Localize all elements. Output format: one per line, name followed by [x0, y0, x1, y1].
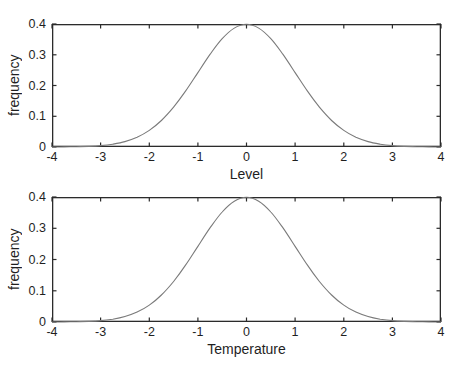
y-tick-label: 0.3 [29, 49, 46, 62]
y-axis-label: frequency [6, 24, 22, 147]
x-tick-label: 3 [389, 326, 396, 339]
x-tick-label: -1 [192, 326, 203, 339]
x-tick-label: 4 [438, 326, 445, 339]
y-axis-label: frequency [6, 197, 22, 322]
y-tick-label: 0.2 [29, 253, 46, 266]
x-tick-label: 3 [389, 151, 396, 164]
x-tick-label: -3 [95, 326, 106, 339]
x-tick-label: 1 [292, 326, 299, 339]
plot-level: frequency Level -4-3-2-10123400.10.20.30… [52, 24, 441, 147]
y-tick-label: 0.1 [29, 285, 46, 298]
axes-canvas-level [52, 24, 441, 147]
x-tick-label: -2 [144, 326, 155, 339]
figure: frequency Level -4-3-2-10123400.10.20.30… [0, 0, 467, 375]
x-axis-label: Temperature [207, 342, 286, 356]
x-tick-label: -4 [46, 326, 57, 339]
y-tick-label: 0.3 [29, 222, 46, 235]
x-tick-label: 2 [340, 326, 347, 339]
x-tick-label: 0 [243, 151, 250, 164]
x-tick-label: 1 [292, 151, 299, 164]
x-tick-label: -2 [144, 151, 155, 164]
y-tick-label: 0.1 [29, 110, 46, 123]
y-tick-label: 0 [39, 141, 46, 154]
x-tick-label: 2 [340, 151, 347, 164]
x-tick-label: 0 [243, 326, 250, 339]
axes-canvas-temperature [52, 197, 441, 322]
y-tick-label: 0.2 [29, 79, 46, 92]
x-tick-label: -3 [95, 151, 106, 164]
plot-temperature: frequency Temperature -4-3-2-10123400.10… [52, 197, 441, 322]
y-tick-label: 0.4 [29, 191, 46, 204]
x-tick-label: 4 [438, 151, 445, 164]
y-tick-label: 0 [39, 316, 46, 329]
x-tick-label: -4 [46, 151, 57, 164]
x-tick-label: -1 [192, 151, 203, 164]
x-axis-label: Level [230, 167, 263, 181]
y-tick-label: 0.4 [29, 18, 46, 31]
